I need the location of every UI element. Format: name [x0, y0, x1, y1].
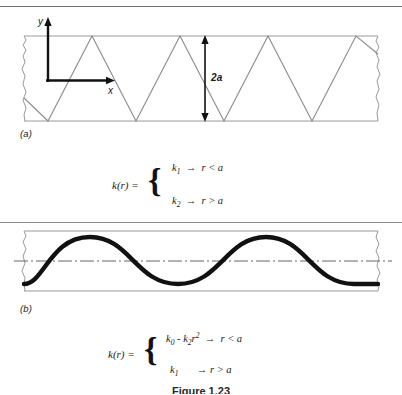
equation-b-branch-1-text: k0 - k2r2 → r < a	[166, 333, 242, 344]
equation-b-lhs: k(r) =	[108, 348, 135, 360]
equation-a-branch-1-text: k1 → r < a	[172, 162, 223, 173]
equation-a-brace: {	[148, 164, 161, 198]
equation-b-branch-2: k1 → r > a	[170, 364, 232, 378]
panel-b-diagram	[0, 226, 402, 296]
panel-label-a: (a)	[20, 128, 32, 139]
equation-a-branch-2-text: k2 → r > a	[172, 195, 223, 206]
figure-caption-text: Figure 1.23	[172, 385, 230, 394]
axis-label-y: y	[38, 16, 43, 27]
equation-a-branch-2: k2 → r > a	[172, 195, 223, 209]
equation-b-brace: {	[144, 333, 157, 367]
panel-a-diagram	[0, 14, 402, 132]
panel-label-b: (b)	[20, 303, 32, 314]
equation-a-lhs: k(r) =	[112, 179, 139, 191]
figure-container: y x 2a (a) k(r) = { k1 → r < a k2 → r > …	[0, 0, 402, 395]
equation-a-branch-1: k1 → r < a	[172, 162, 223, 176]
equation-b-branch-2-text: k1 → r > a	[170, 364, 232, 375]
figure-caption: Figure 1.23	[0, 385, 402, 394]
dimension-label-2a: 2a	[211, 72, 223, 83]
equation-b-branch-1: k0 - k2r2 → r < a	[166, 330, 242, 347]
axis-label-x: x	[108, 85, 113, 96]
top-divider-rule	[0, 6, 402, 7]
middle-divider-rule	[0, 222, 402, 223]
equation-b: k(r) = { k0 - k2r2 → r < a k1 → r > a	[0, 329, 402, 387]
equation-a: k(r) = { k1 → r < a k2 → r > a	[0, 160, 402, 218]
